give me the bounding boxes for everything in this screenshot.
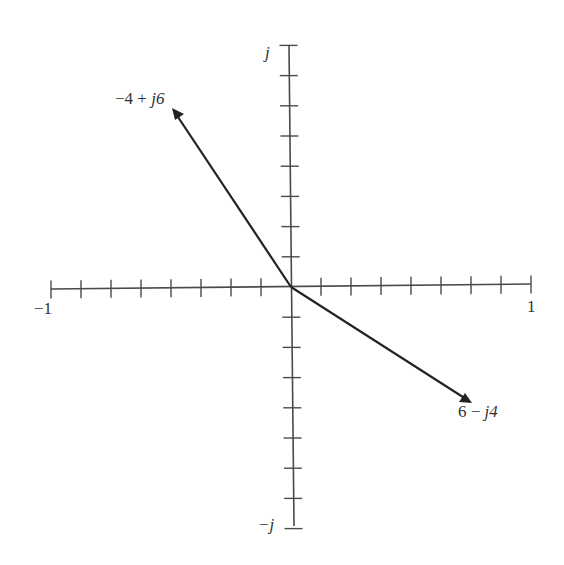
vector-label-6-minus-j4: 6 − j4 [458, 403, 498, 420]
complex-plane-diagram [0, 0, 564, 565]
vector-6-minus-j4 [291, 287, 472, 403]
imag-max-label: j [265, 44, 270, 61]
vector-neg4-plus-j6 [172, 108, 291, 287]
imag-min-label: −j [258, 516, 274, 533]
vector-label-neg4-plus-j6: −4 + j6 [115, 90, 164, 107]
real-max-label: 1 [527, 298, 536, 315]
real-min-label: −1 [34, 300, 52, 317]
